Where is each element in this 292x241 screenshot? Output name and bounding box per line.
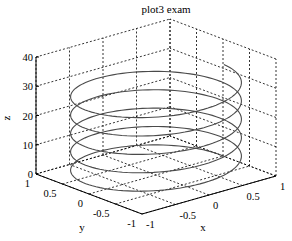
z-tick-label: 10 [23,140,34,151]
y-tick-label: 1 [25,178,30,189]
z-tick-label: 40 [23,52,34,63]
y-axis-label: y [79,221,85,233]
y-tick-label: -1 [127,218,136,229]
grid-lines [36,19,276,214]
x-tick-label: -1 [146,219,155,230]
plot3-figure: plot3 exam 010203040-1-0.500.51-1-0.500.… [0,0,292,241]
floor-grid-y [89,156,223,194]
wall-grid-z2 [170,19,276,59]
wall-grid-z [36,107,170,145]
x-tick-label: 0 [213,200,218,211]
wall-grid-z [36,19,170,57]
helix-curve [71,64,242,191]
z-tick-label: 30 [23,81,34,92]
x-tick-label: 0.5 [247,191,260,202]
chart-title: plot3 exam [141,3,191,15]
x-axis-label: x [200,221,206,233]
x-tick-label: 1 [280,181,285,192]
z-axis-label: z [0,115,12,120]
y-tick-label: 0.5 [43,188,56,199]
y-tick-label: 0 [78,198,83,209]
floor-grid-x [70,165,176,205]
tick-labels: 010203040-1-0.500.51-1-0.500.51 [23,52,286,230]
wall-grid-z2 [170,107,276,147]
x-tick-label: -0.5 [180,210,197,221]
y-tick-label: -0.5 [93,208,110,219]
z-tick-label: 20 [23,111,34,122]
